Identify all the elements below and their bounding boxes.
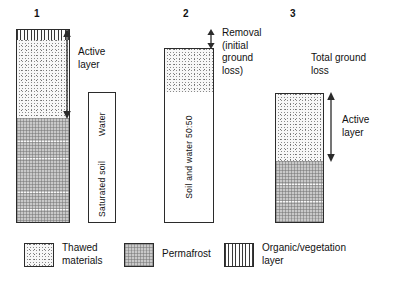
active-layer-arrow-col1: [60, 29, 74, 119]
layer-permafrost-col1: [17, 118, 69, 222]
legend-label-thawed-materials: Thawed materials: [62, 242, 103, 267]
legend-label-organic-vegetation-layer: Organic/vegetation layer: [262, 242, 346, 267]
removal-arrow-col2: [204, 29, 218, 49]
total-ground-loss-label: Total ground loss: [311, 52, 366, 77]
layer-saturated-soil: Saturated soil: [89, 155, 115, 222]
active-layer-label-col1: Active layer: [78, 46, 105, 71]
vertical-stripe-swatch-icon: [224, 243, 254, 267]
soil-column-3: [275, 93, 324, 223]
layer-water: Water: [89, 93, 115, 155]
water-saturated-soil-column: Water Saturated soil: [88, 92, 116, 223]
column-number-1: 1: [34, 9, 40, 19]
permafrost-ground-loss-diagram: 1 2 3 Active layer Water Saturated soil …: [0, 0, 399, 288]
layer-thawed-materials-col2: [165, 49, 213, 92]
active-layer-label-col3: Active layer: [342, 114, 369, 139]
layer-permafrost-col3: [276, 161, 323, 222]
soil-column-2: Soil and water 50:50: [164, 48, 214, 223]
column-number-3: 3: [290, 9, 296, 19]
legend-label-permafrost: Permafrost: [162, 248, 211, 261]
active-layer-arrow-col3: [324, 92, 338, 162]
stipple-swatch-icon: [24, 243, 54, 267]
gray-grid-swatch-icon: [124, 243, 154, 267]
column-number-2: 2: [183, 9, 189, 19]
layer-thawed-materials-col3: [276, 94, 323, 161]
layer-soil-and-water-col2: Soil and water 50:50: [165, 92, 213, 222]
saturated-soil-label: Saturated soil: [98, 160, 107, 216]
water-label: Water: [98, 112, 107, 136]
soil-and-water-label: Soil and water 50:50: [185, 115, 194, 199]
removal-initial-ground-loss-label: Removal (initial ground loss): [222, 27, 261, 77]
